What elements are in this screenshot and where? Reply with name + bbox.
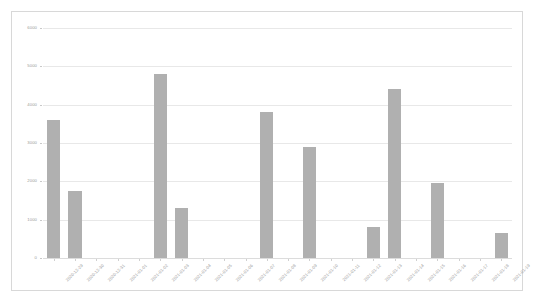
bar[interactable]	[68, 191, 81, 258]
x-axis-tick-mark	[395, 259, 396, 261]
bar[interactable]	[388, 89, 401, 258]
axis-baseline	[43, 258, 512, 259]
x-axis-tick-label: 2021-01-15	[427, 263, 446, 282]
x-axis-tick-label: 2021-01-07	[256, 263, 275, 282]
x-axis-tick-mark	[182, 259, 183, 261]
x-axis-tick-label: 2021-01-12	[363, 263, 382, 282]
y-axis-tick-label: 0	[12, 255, 37, 260]
x-axis-tick-mark	[501, 259, 502, 261]
x-axis-tick-mark	[459, 259, 460, 261]
x-axis-tick-label: 2021-01-10	[320, 263, 339, 282]
y-axis-tick-label: 6000	[12, 25, 37, 30]
bar[interactable]	[260, 112, 273, 258]
x-axis-tick-label: 2020-12-30	[86, 263, 105, 282]
x-axis-tick-mark	[437, 259, 438, 261]
x-axis-tick-mark	[75, 259, 76, 261]
y-axis-tick-label: 4000	[12, 102, 37, 107]
x-axis-tick-mark	[139, 259, 140, 261]
gridline	[43, 66, 512, 67]
y-axis-tick-label: 2000	[12, 178, 37, 183]
x-axis-tick-mark	[331, 259, 332, 261]
x-axis-tick-label: 2021-01-14	[405, 263, 424, 282]
bar-chart-plot-area: 01000200030004000500060002020-12-292020-…	[12, 12, 524, 292]
gridline	[43, 143, 512, 144]
x-axis-tick-mark	[480, 259, 481, 261]
x-axis-tick-label: 2021-01-11	[341, 263, 360, 282]
x-axis-tick-label: 2021-01-02	[150, 263, 169, 282]
y-axis-tick-mark	[40, 258, 42, 259]
x-axis-tick-mark	[267, 259, 268, 261]
x-axis-tick-mark	[54, 259, 55, 261]
x-axis-tick-label: 2020-12-31	[107, 263, 126, 282]
x-axis-tick-label: 2021-01-13	[384, 263, 403, 282]
y-axis-tick-mark	[40, 143, 42, 144]
x-axis-tick-label: 2021-01-01	[128, 263, 147, 282]
bar[interactable]	[367, 227, 380, 258]
bar[interactable]	[495, 233, 508, 258]
x-axis-tick-label: 2021-01-04	[192, 263, 211, 282]
x-axis-tick-label: 2021-01-05	[213, 263, 232, 282]
x-axis-tick-label: 2020-12-29	[64, 263, 83, 282]
x-axis-tick-mark	[352, 259, 353, 261]
x-axis-tick-mark	[246, 259, 247, 261]
gridline	[43, 181, 512, 182]
x-axis-tick-label: 2021-01-19	[512, 263, 531, 282]
x-axis-tick-label: 2021-01-18	[491, 263, 510, 282]
x-axis-tick-mark	[373, 259, 374, 261]
bar[interactable]	[47, 120, 60, 258]
y-axis-tick-label: 5000	[12, 63, 37, 68]
y-axis-tick-label: 3000	[12, 140, 37, 145]
x-axis-tick-label: 2021-01-17	[469, 263, 488, 282]
bar[interactable]	[431, 183, 444, 258]
bar[interactable]	[175, 208, 188, 258]
x-axis-tick-label: 2021-01-09	[299, 263, 318, 282]
x-axis-tick-mark	[118, 259, 119, 261]
y-axis-tick-mark	[40, 28, 42, 29]
x-axis-tick-mark	[203, 259, 204, 261]
x-axis-tick-label: 2021-01-16	[448, 263, 467, 282]
y-axis-tick-mark	[40, 66, 42, 67]
bar[interactable]	[154, 74, 167, 258]
gridline	[43, 105, 512, 106]
gridline	[43, 28, 512, 29]
chart-frame: 01000200030004000500060002020-12-292020-…	[11, 11, 523, 291]
y-axis-tick-mark	[40, 181, 42, 182]
y-axis-tick-mark	[40, 105, 42, 106]
x-axis-tick-mark	[416, 259, 417, 261]
x-axis-tick-mark	[309, 259, 310, 261]
y-axis-tick-label: 1000	[12, 217, 37, 222]
x-axis-tick-mark	[160, 259, 161, 261]
x-axis-tick-label: 2021-01-03	[171, 263, 190, 282]
bar[interactable]	[303, 147, 316, 258]
x-axis-tick-mark	[288, 259, 289, 261]
x-axis-tick-label: 2021-01-06	[235, 263, 254, 282]
y-axis-tick-mark	[40, 220, 42, 221]
x-axis-tick-label: 2021-01-08	[277, 263, 296, 282]
x-axis-tick-mark	[224, 259, 225, 261]
x-axis-tick-mark	[96, 259, 97, 261]
